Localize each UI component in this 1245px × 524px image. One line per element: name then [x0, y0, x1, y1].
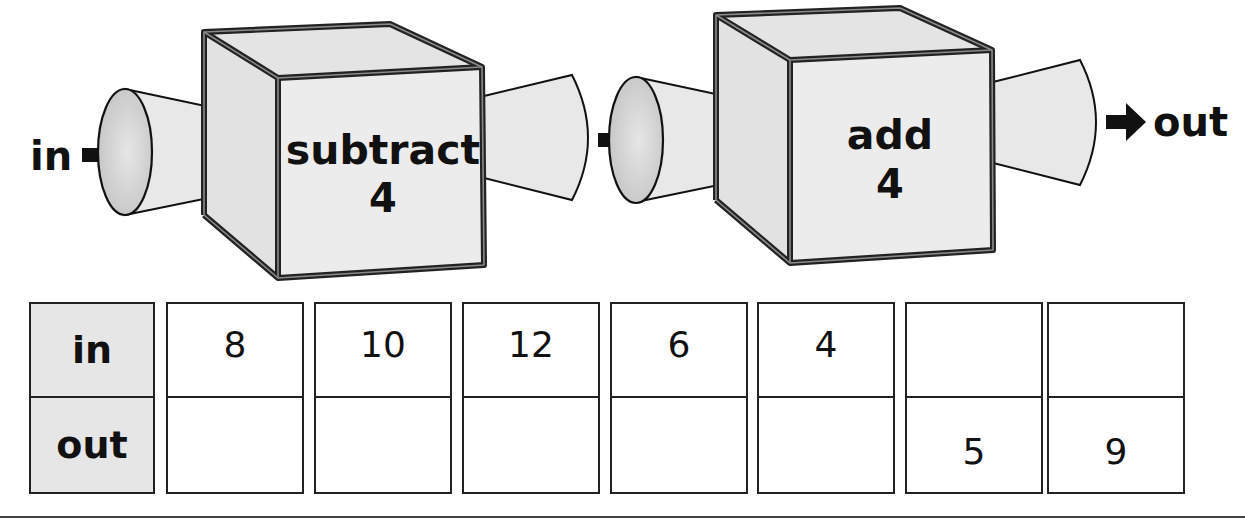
output-arrow-icon	[1106, 103, 1146, 141]
table-column: 9	[1047, 302, 1185, 494]
in-value: 4	[815, 324, 838, 365]
output-funnel-2	[993, 60, 1096, 185]
cube-2: add 4	[716, 8, 993, 263]
table-column: 5	[905, 302, 1043, 494]
table-column: 8	[166, 302, 304, 494]
header-out-label: out	[56, 423, 127, 467]
table-column: 6	[610, 302, 748, 494]
in-cell[interactable]: 6	[612, 304, 746, 398]
table-column: 12	[462, 302, 600, 494]
in-value: 6	[668, 324, 691, 365]
header-cell-in: in	[31, 304, 153, 398]
table-column: 4	[757, 302, 895, 494]
in-cell[interactable]: 12	[464, 304, 598, 398]
machine-1-operand: 4	[369, 175, 397, 221]
table-row-headers: in out	[29, 302, 155, 494]
in-cell[interactable]: 4	[759, 304, 893, 398]
in-value: 12	[508, 324, 554, 365]
function-machine-diagram: in	[0, 0, 1245, 290]
out-cell[interactable]	[316, 398, 450, 492]
header-cell-out: out	[31, 398, 153, 492]
out-value: 9	[1105, 431, 1128, 472]
out-cell[interactable]	[464, 398, 598, 492]
out-cell[interactable]: 5	[907, 398, 1041, 492]
table-column: 10	[314, 302, 452, 494]
out-value: 5	[963, 431, 986, 472]
in-cell[interactable]: 10	[316, 304, 450, 398]
bottom-divider	[0, 516, 1245, 518]
header-in-label: in	[72, 328, 112, 372]
out-cell[interactable]: 9	[1049, 398, 1183, 492]
machine-2-operation: add	[847, 111, 933, 159]
machine-2-operand: 4	[876, 161, 904, 207]
diagram-output-label: out	[1153, 99, 1228, 145]
in-value: 10	[360, 324, 406, 365]
in-cell[interactable]	[1049, 304, 1183, 398]
out-cell[interactable]	[759, 398, 893, 492]
diagram-input-label: in	[30, 133, 72, 179]
cube-1: subtract 4	[204, 24, 484, 278]
machine-1-operation: subtract	[286, 126, 480, 174]
in-cell[interactable]	[907, 304, 1041, 398]
out-cell[interactable]	[168, 398, 302, 492]
in-cell[interactable]: 8	[168, 304, 302, 398]
in-value: 8	[224, 324, 247, 365]
machine-subtract: subtract 4	[98, 24, 588, 278]
output-funnel-1	[484, 75, 588, 200]
machine-add: add 4	[609, 8, 1096, 263]
out-cell[interactable]	[612, 398, 746, 492]
